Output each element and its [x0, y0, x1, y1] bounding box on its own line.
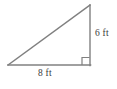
- triangle-outline: [8, 5, 91, 66]
- right-triangle-figure: 6 ft 8 ft: [0, 0, 117, 89]
- dimension-label-vertical-leg: 6 ft: [95, 29, 109, 39]
- right-angle-marker-icon: [82, 58, 90, 66]
- dimension-label-horizontal-leg: 8 ft: [38, 69, 52, 79]
- triangle-diagram-svg: [0, 0, 117, 89]
- triangle-side-hypotenuse: [8, 5, 90, 65]
